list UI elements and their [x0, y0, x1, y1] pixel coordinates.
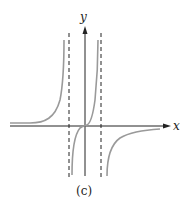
y-axis-label: y: [79, 10, 87, 24]
function-graph: x y (c): [0, 0, 180, 202]
y-axis-arrow-icon: [83, 26, 88, 34]
figure-caption: (c): [76, 184, 92, 198]
right-branch-curve: [107, 129, 160, 176]
x-axis-arrow-icon: [163, 124, 171, 129]
x-axis: [10, 124, 171, 129]
y-axis: [83, 26, 88, 176]
left-branch-curve: [10, 40, 64, 123]
x-axis-label: x: [173, 119, 180, 133]
